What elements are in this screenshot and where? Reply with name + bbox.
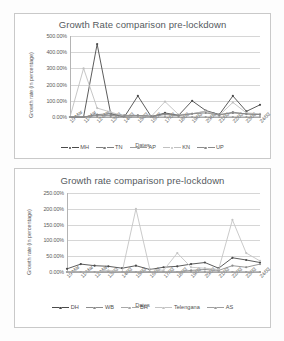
data-point bbox=[191, 113, 193, 115]
legend-item-telengana[interactable]: Telengana bbox=[155, 305, 200, 311]
legend-item-kn[interactable]: KN bbox=[163, 145, 190, 151]
data-point bbox=[218, 114, 220, 116]
legend-line-icon bbox=[96, 307, 103, 308]
data-point bbox=[204, 271, 206, 273]
y-axis-title: Growth rate (in percentage) bbox=[26, 209, 32, 275]
data-point bbox=[231, 219, 233, 221]
data-point bbox=[259, 104, 261, 106]
data-point bbox=[245, 266, 247, 268]
data-point bbox=[259, 263, 261, 265]
plot-area: 0.00%100.00%200.00%300.00%400.00%500.00%… bbox=[70, 36, 260, 117]
data-point bbox=[110, 111, 112, 113]
data-point bbox=[231, 265, 233, 267]
data-point bbox=[162, 266, 164, 268]
chart-legend: MHTNAPKNUP bbox=[15, 145, 270, 151]
legend-label: AS bbox=[226, 305, 233, 311]
legend-line-icon bbox=[207, 307, 214, 308]
data-point bbox=[66, 271, 68, 273]
legend-line-icon bbox=[96, 147, 103, 148]
y-axis-tick-label: 300.00% bbox=[46, 65, 67, 71]
legend-item-dh[interactable]: DH bbox=[52, 305, 79, 311]
legend-label: TN bbox=[115, 145, 122, 151]
data-point bbox=[93, 265, 95, 267]
data-point bbox=[107, 271, 109, 273]
series-line-kn bbox=[70, 68, 260, 117]
x-axis-tick-labels: 10-Mar11-Mar12-Mar13/0314/0315/0316/0317… bbox=[67, 272, 260, 302]
series-layer bbox=[70, 36, 260, 117]
data-point bbox=[135, 208, 137, 210]
data-point bbox=[82, 116, 84, 118]
data-point bbox=[205, 116, 207, 118]
legend-line-icon bbox=[155, 307, 162, 308]
data-point bbox=[96, 43, 98, 45]
data-point bbox=[205, 112, 207, 114]
data-point bbox=[137, 115, 139, 117]
y-axis-tick-label: 200.00% bbox=[46, 82, 67, 88]
data-point bbox=[164, 113, 166, 115]
legend-line-icon bbox=[121, 307, 128, 308]
data-point bbox=[176, 271, 178, 273]
legend-item-tn[interactable]: TN bbox=[96, 145, 123, 151]
data-point bbox=[245, 259, 247, 261]
legend-item-mh[interactable]: MH bbox=[61, 145, 89, 151]
legend-line-icon bbox=[197, 147, 204, 148]
legend-label: UP bbox=[216, 145, 224, 151]
data-point bbox=[190, 266, 192, 268]
data-point bbox=[96, 114, 98, 116]
legend-item-wb[interactable]: WB bbox=[86, 305, 114, 311]
data-point bbox=[259, 260, 261, 262]
data-point bbox=[164, 116, 166, 118]
data-point bbox=[190, 271, 192, 273]
data-point bbox=[204, 267, 206, 269]
data-point bbox=[110, 114, 112, 116]
chart-title: Growth Rate comparison pre-lockdown bbox=[15, 19, 270, 30]
series-layer bbox=[67, 193, 260, 272]
data-point bbox=[96, 107, 98, 109]
data-point bbox=[82, 67, 84, 69]
document-page: Growth Rate comparison pre-lockdown Grow… bbox=[0, 0, 284, 341]
data-point bbox=[259, 116, 261, 118]
y-axis-tick-label: 500.00% bbox=[46, 33, 67, 39]
data-point bbox=[135, 265, 137, 267]
legend-line-icon bbox=[130, 147, 137, 148]
legend-line-icon bbox=[165, 307, 172, 308]
y-axis-tick-label: 50.00% bbox=[46, 253, 64, 259]
data-point bbox=[231, 257, 233, 259]
y-axis-tick-label: 0.00% bbox=[52, 114, 67, 120]
data-point bbox=[93, 271, 95, 273]
data-point bbox=[107, 265, 109, 267]
plot-area: 0.00%50.00%100.00%150.00%200.00%250.00%1… bbox=[67, 193, 260, 272]
data-point bbox=[232, 111, 234, 113]
data-point bbox=[135, 271, 137, 273]
y-axis-tick-label: 0.00% bbox=[49, 269, 64, 275]
data-point bbox=[245, 271, 247, 273]
legend-label: DH bbox=[71, 305, 79, 311]
data-point bbox=[259, 113, 261, 115]
y-axis-tick-label: 250.00% bbox=[43, 190, 64, 196]
data-point bbox=[149, 268, 151, 270]
y-axis-title: Growth rate (in percentage) bbox=[28, 52, 34, 118]
y-axis-tick-label: 400.00% bbox=[46, 49, 67, 55]
legend-line-icon bbox=[140, 147, 147, 148]
data-point bbox=[245, 116, 247, 118]
legend-item-as[interactable]: AS bbox=[207, 305, 234, 311]
legend-item-bh[interactable]: BH bbox=[121, 305, 148, 311]
chart-card-growth-rate-1: Growth Rate comparison pre-lockdown Grow… bbox=[14, 13, 271, 159]
legend-item-ap[interactable]: AP bbox=[130, 145, 157, 151]
legend-item-up[interactable]: UP bbox=[197, 145, 224, 151]
legend-line-icon bbox=[217, 307, 224, 308]
legend-line-icon bbox=[163, 147, 170, 148]
data-point bbox=[80, 271, 82, 273]
y-axis-tick-label: 150.00% bbox=[43, 222, 64, 228]
data-point bbox=[259, 271, 261, 273]
legend-label: MH bbox=[80, 145, 89, 151]
legend-label: WB bbox=[105, 305, 114, 311]
data-point bbox=[137, 95, 139, 97]
legend-label: AP bbox=[149, 145, 156, 151]
chart-legend: DHWBBHTelenganaAS bbox=[15, 305, 270, 311]
data-point bbox=[162, 271, 164, 273]
legend-line-icon bbox=[86, 307, 93, 308]
data-point bbox=[191, 100, 193, 102]
legend-line-icon bbox=[107, 147, 114, 148]
series-line-mh bbox=[70, 44, 260, 117]
